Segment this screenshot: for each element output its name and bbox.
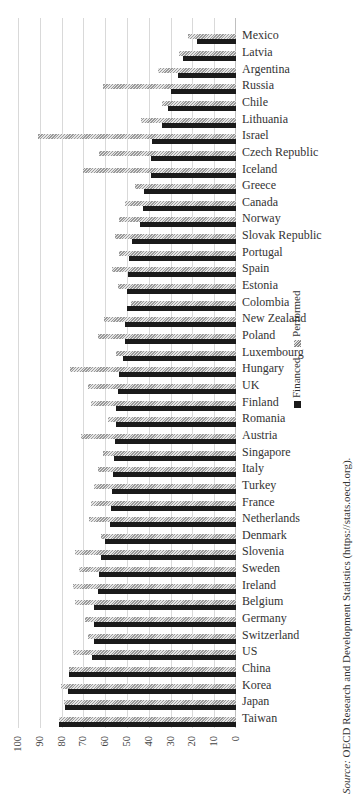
bar-financed bbox=[171, 89, 236, 94]
y-tick-label: 50 bbox=[121, 736, 132, 766]
bar-performed bbox=[83, 168, 236, 173]
bar-financed bbox=[127, 289, 236, 294]
bar-financed bbox=[98, 589, 236, 594]
y-tick-label: 70 bbox=[77, 736, 88, 766]
bar-financed bbox=[140, 223, 236, 228]
bar-performed bbox=[59, 717, 236, 722]
bar-financed bbox=[101, 556, 236, 561]
category-group bbox=[18, 328, 236, 345]
bar-financed bbox=[92, 655, 236, 660]
category-label: Mexico bbox=[242, 7, 257, 44]
bar-performed bbox=[81, 434, 236, 439]
y-tick-label: 30 bbox=[165, 736, 176, 766]
category-label: UK bbox=[242, 376, 257, 393]
bar-financed bbox=[151, 173, 236, 178]
category-group bbox=[18, 195, 236, 212]
bar-financed bbox=[116, 422, 236, 427]
bar-financed bbox=[65, 705, 236, 710]
bar-financed bbox=[105, 539, 236, 544]
bar-financed bbox=[125, 339, 236, 344]
bar-financed bbox=[94, 639, 236, 644]
category-group bbox=[18, 362, 236, 379]
bar-financed bbox=[59, 722, 236, 727]
bar-financed bbox=[197, 39, 236, 44]
category-group bbox=[18, 262, 236, 279]
category-group bbox=[18, 312, 236, 329]
category-group bbox=[18, 545, 236, 562]
bar-financed bbox=[94, 622, 236, 627]
bar-performed bbox=[103, 451, 236, 456]
category-group bbox=[18, 428, 236, 445]
bar-performed bbox=[94, 484, 236, 489]
bar-performed bbox=[75, 551, 236, 556]
bar-financed bbox=[110, 522, 236, 527]
bar-financed bbox=[125, 322, 236, 327]
category-group bbox=[18, 229, 236, 246]
category-group bbox=[18, 462, 236, 479]
bar-financed bbox=[127, 306, 236, 311]
bar-financed bbox=[132, 239, 236, 244]
bar-performed bbox=[73, 584, 237, 589]
legend-performed-label: Performed bbox=[290, 290, 302, 336]
bar-performed bbox=[141, 118, 236, 123]
category-group bbox=[18, 129, 236, 146]
bar-financed bbox=[119, 372, 236, 377]
bar-performed bbox=[179, 51, 236, 56]
bar-performed bbox=[103, 84, 236, 89]
y-tick-label: 40 bbox=[143, 736, 154, 766]
category-group bbox=[18, 378, 236, 395]
bar-financed bbox=[143, 206, 236, 211]
category-group bbox=[18, 412, 236, 429]
bar-performed bbox=[73, 650, 237, 655]
bar-financed bbox=[69, 672, 236, 677]
source-text: OECD Research and Development Statistics… bbox=[340, 458, 352, 761]
category-group bbox=[18, 212, 236, 229]
bar-performed bbox=[101, 534, 236, 539]
category-group bbox=[18, 512, 236, 529]
bar-performed bbox=[188, 34, 236, 39]
bar-financed bbox=[129, 256, 236, 261]
category-group bbox=[18, 695, 236, 712]
bar-performed bbox=[88, 634, 236, 639]
legend: Financed Performed bbox=[290, 290, 302, 408]
y-tick-label: 20 bbox=[186, 736, 197, 766]
y-tick-label: 90 bbox=[34, 736, 45, 766]
bar-performed bbox=[64, 700, 236, 705]
bar-performed bbox=[98, 334, 236, 339]
category-group bbox=[18, 578, 236, 595]
bar-performed bbox=[69, 667, 236, 672]
bar-financed bbox=[168, 106, 236, 111]
bar-performed bbox=[116, 351, 236, 356]
bar-performed bbox=[119, 218, 236, 223]
category-group bbox=[18, 95, 236, 112]
legend-financed-swatch bbox=[294, 401, 301, 408]
category-group bbox=[18, 562, 236, 579]
bar-performed bbox=[131, 301, 236, 306]
category-group bbox=[18, 495, 236, 512]
bar-performed bbox=[115, 234, 236, 239]
bar-financed bbox=[112, 489, 236, 494]
y-tick-label: 0 bbox=[230, 736, 241, 766]
bar-performed bbox=[91, 401, 236, 406]
source-note: Source: OECD Research and Development St… bbox=[340, 458, 352, 794]
bar-financed bbox=[118, 389, 236, 394]
bar-performed bbox=[158, 68, 236, 73]
bar-performed bbox=[135, 184, 236, 189]
category-group bbox=[18, 528, 236, 545]
category-group bbox=[18, 45, 236, 62]
bar-financed bbox=[162, 123, 236, 128]
bar-performed bbox=[98, 467, 236, 472]
bar-financed bbox=[68, 689, 236, 694]
legend-financed-label: Financed bbox=[290, 358, 302, 398]
bar-financed bbox=[115, 439, 236, 444]
bar-financed bbox=[111, 506, 236, 511]
bar-performed bbox=[104, 317, 236, 322]
category-group bbox=[18, 162, 236, 179]
category-group bbox=[18, 711, 236, 728]
bar-performed bbox=[108, 417, 236, 422]
bar-financed bbox=[151, 156, 236, 161]
y-tick-label: 10 bbox=[208, 736, 219, 766]
category-group bbox=[18, 595, 236, 612]
category-group bbox=[18, 678, 236, 695]
bar-financed bbox=[114, 456, 236, 461]
